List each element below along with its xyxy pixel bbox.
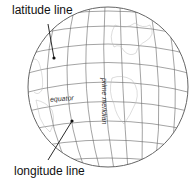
latitude-pointer-dot — [52, 56, 55, 59]
globe-diagram — [0, 0, 189, 184]
latitude-line-label: latitude line — [12, 3, 73, 17]
prime-meridian-label: prime meridian — [101, 78, 108, 124]
longitude-pointer-dot — [70, 119, 73, 122]
longitude-line-label: longitude line — [14, 164, 85, 178]
